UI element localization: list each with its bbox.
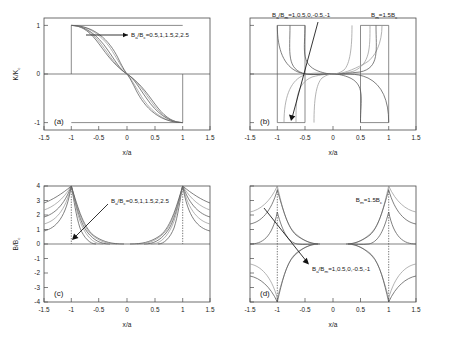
panel-c-ytick-8: -4 — [34, 298, 40, 305]
panel-c-x-axis: -1.5 -1 -0.5 0 0.5 1 1.5 — [38, 298, 214, 313]
panel-d-label: (d) — [260, 289, 270, 298]
panel-c-ylabel: B/Bc — [12, 237, 21, 251]
panel-c-curves-right — [130, 186, 210, 244]
panel-c-annotation-label: Ba/Bc=0.5,1,1.5,2,2.5 — [111, 197, 169, 206]
panel-a-xtick-3: 0 — [125, 134, 129, 141]
panel-b-xtick-0: -1.5 — [244, 134, 255, 141]
panel-d-xtick-5: 1 — [387, 306, 391, 313]
panel-a-x-axis: -1.5 -1 -0.5 0 0.5 1 1.5 — [38, 126, 214, 141]
panel-d-annotation2-label: Bm=1.5Bc — [356, 196, 383, 205]
panel-c-y-axis: 4 3 2 1 0 -1 -2 -3 -4 — [34, 182, 48, 305]
panel-d: Bm=1.5Bc Ba/Bm=1,0.5,0,-0.5,-1 — [226, 172, 452, 345]
panel-a-xtick-4: 0.5 — [151, 134, 160, 141]
panel-d-xtick-3: 0 — [331, 306, 335, 313]
panel-d-x-axis: -1.5 -1 -0.5 0 0.5 1 1.5 — [244, 298, 420, 313]
panel-b-xtick-5: 1 — [387, 134, 391, 141]
panel-a-ylabel: K/Kc — [12, 67, 21, 81]
panel-a-xlabel: x/a — [123, 149, 132, 156]
panel-b-xtick-1: -1 — [274, 134, 280, 141]
panel-b-xtick-6: 1.5 — [412, 134, 421, 141]
panel-b-xlabel: x/a — [329, 149, 338, 156]
panel-a-xtick-2: -0.5 — [93, 134, 104, 141]
panel-a: Ba/Bc=0.5,1,1.5,2,2.5 1 0 -1 -1.5 — [0, 0, 226, 172]
panel-c-xlabel: x/a — [123, 321, 132, 328]
panel-c-xtick-5: 1 — [181, 306, 185, 313]
panel-c: Ba/Bc=0.5,1,1.5,2,2.5 4 3 2 1 0 -1 -2 -3 — [0, 172, 226, 345]
panel-c-ytick-6: -2 — [34, 269, 40, 276]
panel-d-xtick-0: -1.5 — [244, 306, 255, 313]
panel-b-y-axis — [250, 25, 254, 122]
panel-d-y-axis — [250, 186, 254, 302]
panel-c-peak-markers — [71, 186, 182, 244]
panel-a-ytick-2: -1 — [34, 119, 40, 126]
panel-a-ytick-0: 1 — [36, 22, 40, 29]
panel-a-xtick-1: -1 — [68, 134, 74, 141]
panel-c-xtick-6: 1.5 — [206, 306, 215, 313]
panel-d-xlabel: x/a — [329, 321, 338, 328]
panel-b-xtick-3: 0 — [331, 134, 335, 141]
panel-d-xtick-4: 0.5 — [356, 306, 365, 313]
panel-a-xtick-0: -1.5 — [38, 134, 49, 141]
panel-d-annotation-label: Ba/Bm=1,0.5,0,-0.5,-1 — [312, 265, 371, 274]
panel-b-label: (b) — [260, 117, 270, 126]
panel-b-xtick-2: -0.5 — [299, 134, 310, 141]
panel-c-xtick-0: -1.5 — [38, 306, 49, 313]
panel-d-xtick-6: 1.5 — [412, 306, 421, 313]
panel-a-annotation-label: Ba/Bc=0.5,1,1.5,2,2.5 — [131, 31, 189, 40]
panel-d-xtick-1: -1 — [274, 306, 280, 313]
panel-a-label: (a) — [54, 117, 64, 126]
panel-c-xtick-2: -0.5 — [93, 306, 104, 313]
panel-b-xtick-4: 0.5 — [356, 134, 365, 141]
panel-d-annotation-arrow — [264, 208, 309, 265]
panel-a-y-axis: 1 0 -1 — [34, 22, 48, 126]
panel-b-annotation-arrow — [289, 22, 318, 121]
panel-a-ytick-1: 0 — [36, 70, 40, 77]
panel-c-xtick-3: 0 — [125, 306, 129, 313]
figure-multi-panel: Ba/Bc=0.5,1,1.5,2,2.5 1 0 -1 -1.5 — [0, 0, 452, 345]
panel-c-label: (c) — [54, 289, 64, 298]
panel-c-xtick-1: -1 — [68, 306, 74, 313]
panel-c-ytick-2: 2 — [36, 211, 40, 218]
panel-c-ytick-3: 1 — [36, 226, 40, 233]
panel-c-ytick-7: -3 — [34, 284, 40, 291]
panel-c-ytick-1: 3 — [36, 197, 40, 204]
panel-b: Ba/Bm=1,0.5,0,-0.5,-1 Bm=1.5Bc -1.5 -1 — [226, 0, 452, 172]
panel-b-x-axis: -1.5 -1 -0.5 0 0.5 1 1.5 — [244, 126, 420, 141]
panel-c-curves-left — [44, 186, 124, 244]
panel-c-xtick-4: 0.5 — [151, 306, 160, 313]
panel-c-ytick-4: 0 — [36, 240, 40, 247]
panel-d-xtick-2: -0.5 — [299, 306, 310, 313]
panel-c-ytick-0: 4 — [36, 182, 40, 189]
panel-c-ytick-5: -1 — [34, 255, 40, 262]
panel-a-xtick-5: 1 — [181, 134, 185, 141]
panel-a-xtick-6: 1.5 — [206, 134, 215, 141]
